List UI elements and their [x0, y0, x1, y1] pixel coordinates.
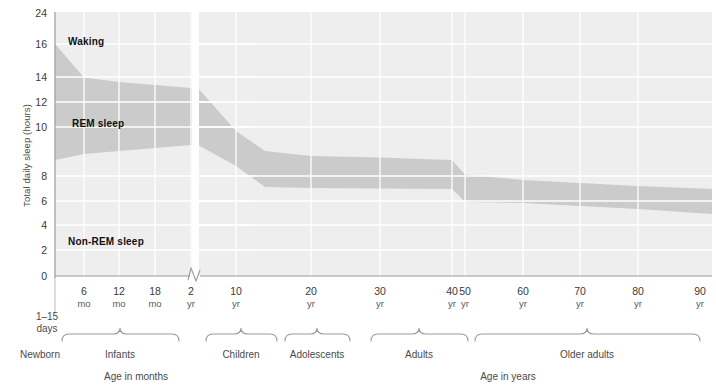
x-tick-90yr-unit: yr [696, 298, 704, 309]
newborn-tick-label: 1–15 days [36, 311, 59, 334]
y-tick-10: 10 [35, 121, 47, 133]
chart-svg: 24 16 14 12 10 8 6 4 2 0 Waking REM slee… [0, 0, 716, 391]
axis-break-gap [192, 12, 199, 276]
y-tick-24: 24 [35, 7, 47, 19]
x-tick-80yr-num: 80 [632, 285, 644, 297]
newborn-range-line1: 1–15 [36, 311, 59, 322]
age-group-older-adults: Older adults [560, 349, 614, 360]
newborn-range-line2: days [36, 323, 57, 334]
x-tick-50yr-num: 50 [459, 285, 471, 297]
y-tick-6: 6 [41, 195, 47, 207]
x-tick-12mo-num: 12 [113, 285, 125, 297]
x-tick-40yr-unit: yr [448, 298, 456, 309]
x-axis-captions: Age in months Age in years [104, 371, 536, 382]
x-tick-20yr-num: 20 [305, 285, 317, 297]
y-tick-4: 4 [41, 219, 47, 231]
x-tick-60yr-unit: yr [519, 298, 527, 309]
age-group-infants: Infants [105, 349, 135, 360]
x-tick-30yr-num: 30 [374, 285, 386, 297]
band-label-waking: Waking [68, 36, 104, 47]
y-tick-14: 14 [35, 71, 47, 83]
sleep-chart: Total daily sleep (hours) [0, 0, 716, 391]
x-tick-10yr-unit: yr [232, 298, 240, 309]
x-tick-labels-right: 10 yr 20 yr 30 yr 40 yr 50 yr 60 yr 70 y… [230, 285, 706, 309]
band-label-non-rem: Non-REM sleep [68, 236, 144, 247]
age-group-newborn: Newborn [20, 349, 60, 360]
x-tick-70yr-num: 70 [574, 285, 586, 297]
x-tick-18mo-unit: mo [148, 298, 161, 309]
x-tick-2yr-unit: yr [187, 298, 195, 309]
age-group-labels: Newborn Infants Children Adolescents Adu… [20, 349, 614, 360]
x-tick-20yr-unit: yr [307, 298, 315, 309]
x-tick-50yr-unit: yr [461, 298, 469, 309]
x-tick-labels-left: 6 mo 12 mo 18 mo 2 yr [77, 285, 195, 309]
y-tick-0: 0 [41, 270, 47, 282]
x-tick-60yr-num: 60 [517, 285, 529, 297]
x-tick-40yr-num: 40 [446, 285, 458, 297]
y-tick-2: 2 [41, 244, 47, 256]
x-tick-90yr-num: 90 [694, 285, 706, 297]
x-tick-2yr-num: 2 [188, 285, 194, 297]
y-tick-8: 8 [41, 170, 47, 182]
x-tick-70yr-unit: yr [576, 298, 584, 309]
x-tick-12mo-unit: mo [112, 298, 125, 309]
y-axis-label: Total daily sleep (hours) [21, 86, 32, 226]
x-tick-30yr-unit: yr [376, 298, 384, 309]
age-group-children: Children [222, 349, 259, 360]
x-tick-80yr-unit: yr [634, 298, 642, 309]
x-tick-18mo-num: 18 [149, 285, 161, 297]
age-group-adults: Adults [405, 349, 433, 360]
y-tick-labels: 24 16 14 12 10 8 6 4 2 0 [35, 7, 47, 282]
y-tick-16: 16 [35, 38, 47, 50]
band-label-rem: REM sleep [72, 118, 124, 129]
age-group-brackets [62, 328, 700, 341]
y-tick-12: 12 [35, 96, 47, 108]
x-axis-caption-right: Age in years [480, 371, 536, 382]
x-axis-caption-left: Age in months [104, 371, 168, 382]
age-group-adolescents: Adolescents [290, 349, 344, 360]
x-tick-6mo-num: 6 [81, 285, 87, 297]
x-tick-6mo-unit: mo [77, 298, 90, 309]
x-tick-10yr-num: 10 [230, 285, 242, 297]
